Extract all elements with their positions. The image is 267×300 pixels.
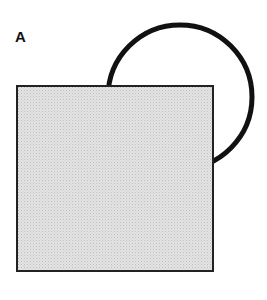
diagram-canvas <box>0 0 267 300</box>
square-shape <box>17 86 213 271</box>
